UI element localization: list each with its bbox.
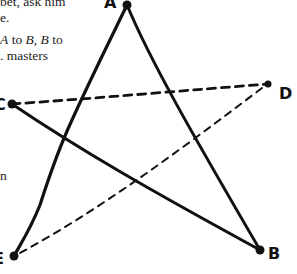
edge-c-d [12, 84, 268, 104]
vertex-b [256, 246, 265, 255]
label-a: A [104, 0, 117, 12]
vertex-e [10, 252, 19, 261]
label-b: B [268, 244, 280, 263]
edge-d-e [18, 88, 262, 254]
vertex-c [8, 100, 17, 109]
star-diagram: A B C D E [0, 0, 297, 274]
label-c: C [0, 95, 6, 114]
edge-a-e [14, 5, 127, 256]
label-d: D [279, 84, 292, 103]
label-e: E [0, 249, 4, 268]
vertex-a [123, 1, 132, 10]
vertex-d [265, 81, 272, 88]
